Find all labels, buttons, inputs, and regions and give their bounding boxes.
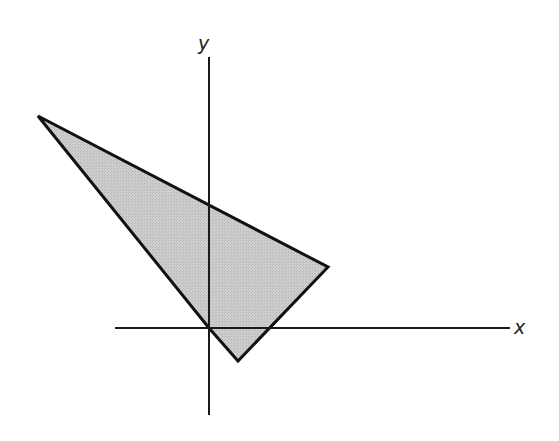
x-axis-label: x xyxy=(514,318,525,337)
y-axis-label: y xyxy=(198,34,209,53)
coordinate-diagram xyxy=(0,0,559,441)
shaded-polygon xyxy=(38,116,328,361)
